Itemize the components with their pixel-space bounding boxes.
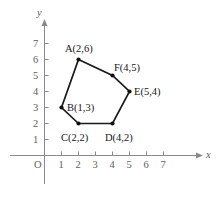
vertex-label-e: E(5,4): [134, 87, 161, 98]
origin-label: O: [34, 160, 42, 171]
plot-canvas: [0, 0, 217, 197]
y-tick-label-1: 1: [33, 135, 38, 146]
x-tick-label-4: 4: [110, 160, 115, 171]
vertex-dot-a: [76, 57, 80, 61]
x-tick-label-1: 1: [59, 160, 64, 171]
x-axis-arrow-icon: [196, 153, 203, 159]
vertex-dot-f: [110, 73, 114, 77]
x-tick-label-6: 6: [144, 160, 149, 171]
y-tick-label-3: 3: [33, 103, 38, 114]
y-axis-arrow-icon: [42, 19, 48, 26]
vertex-dot-d: [110, 121, 114, 125]
vertex-dot-b: [59, 105, 63, 109]
y-axis-label: y: [37, 8, 42, 19]
y-tick-label-5: 5: [33, 71, 38, 82]
x-tick-label-5: 5: [127, 160, 132, 171]
vertex-dot-c: [76, 121, 80, 125]
y-tick-label-2: 2: [33, 119, 38, 130]
x-axis-label: x: [206, 150, 211, 161]
y-tick-label-7: 7: [33, 39, 38, 50]
vertex-label-c: C(2,2): [61, 133, 88, 144]
x-tick-label-7: 7: [161, 160, 166, 171]
y-tick-label-6: 6: [33, 55, 38, 66]
vertex-label-b: B(1,3): [67, 103, 94, 114]
x-tick-label-2: 2: [76, 160, 81, 171]
coordinate-plot-figure: y x O 1 2 3 4 5 6 7 1 2 3 4 5 6 7 A(2,6)…: [0, 0, 217, 197]
vertex-label-a: A(2,6): [65, 44, 93, 55]
vertex-dot-e: [127, 89, 131, 93]
y-tick-label-4: 4: [33, 87, 38, 98]
vertex-label-f: F(4,5): [114, 63, 140, 74]
vertex-label-d: D(4,2): [105, 133, 133, 144]
x-tick-label-3: 3: [93, 160, 98, 171]
